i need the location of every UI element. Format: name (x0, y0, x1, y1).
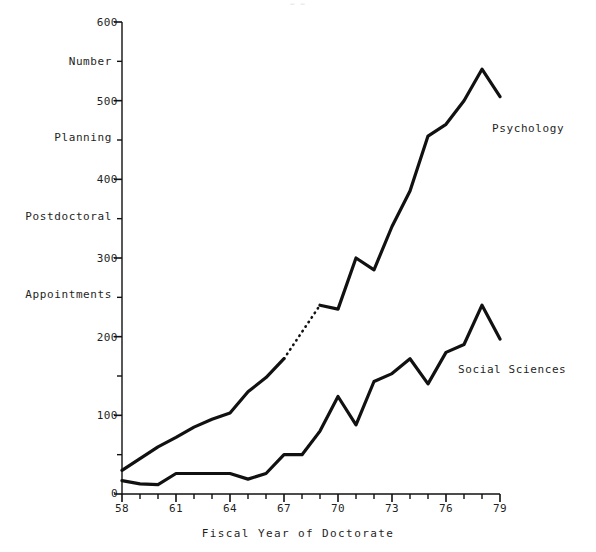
axis-lines (122, 22, 500, 494)
y-axis-ticks (114, 22, 122, 494)
x-axis-ticks (122, 494, 500, 502)
series-paths (122, 69, 500, 484)
series-line-psychology (320, 69, 500, 309)
series-dashed-gap-psychology (284, 305, 320, 358)
chart-figure: — — Number Planning Postdoctoral Appoint… (0, 0, 596, 552)
series-line-psychology (122, 359, 284, 471)
series-line-social-sciences (122, 305, 500, 484)
plot-area (0, 0, 596, 552)
